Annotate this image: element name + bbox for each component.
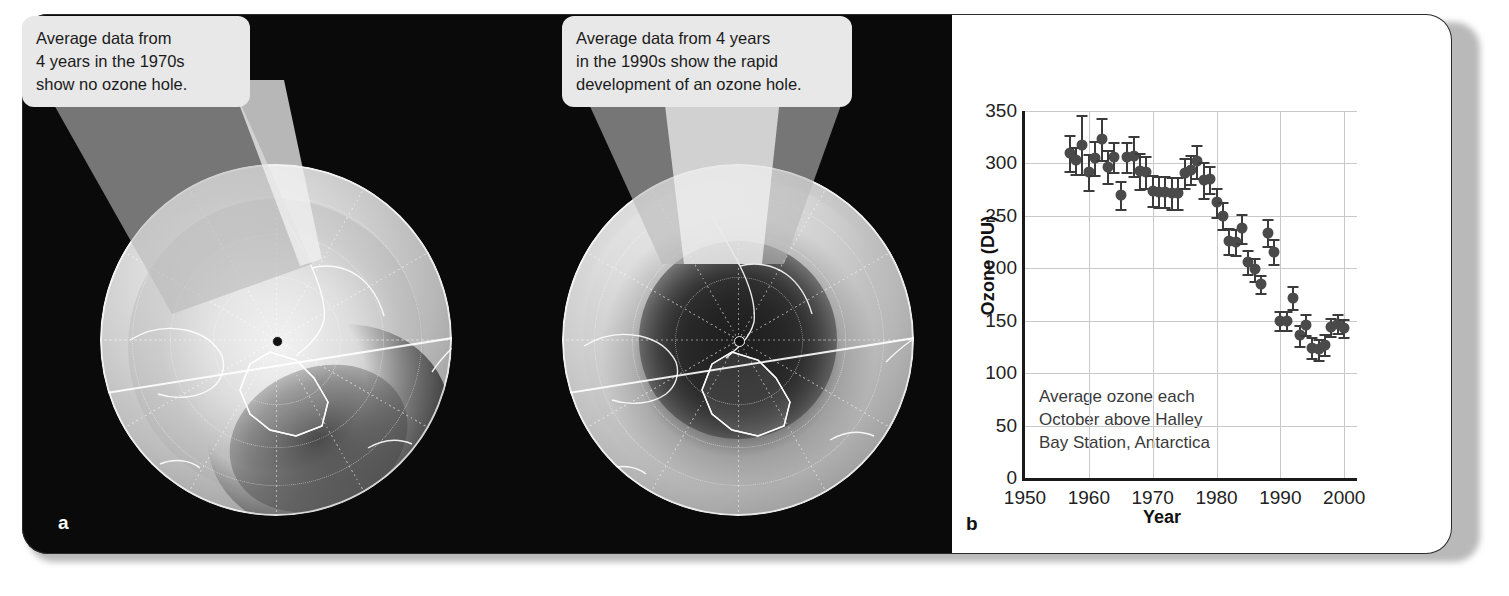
callout-1970s-line-2: 4 years in the 1970s <box>36 50 236 73</box>
y-gridline <box>1025 216 1357 217</box>
y-axis-tick-label: 0 <box>1006 467 1017 489</box>
callout-1990s-bubble: Average data from 4 years in the 1990s s… <box>562 16 852 107</box>
callout-1970s-bubble: Average data from 4 years in the 1970s s… <box>22 16 250 107</box>
data-marker <box>1077 139 1088 150</box>
error-bar-cap-upper <box>1269 239 1280 241</box>
error-bar-cap-lower <box>1198 198 1209 200</box>
error-bar-cap-upper <box>1198 162 1209 164</box>
error-bar-cap-upper <box>1237 214 1248 216</box>
error-bar-cap-lower <box>1122 172 1133 174</box>
plot-annotation-line-3: Bay Station, Antarctica <box>1039 432 1210 455</box>
callout-1990s-line-1: Average data from 4 years <box>576 27 838 50</box>
plot-area: Average ozone each October above Halley … <box>1022 111 1357 481</box>
x-gridline <box>1217 111 1218 478</box>
callout-1990s-line-3: development of an ozone hole. <box>576 73 838 96</box>
x-axis-tick-label: 1970 <box>1132 487 1174 509</box>
x-axis-title: Year <box>952 507 1372 528</box>
error-bar-cap-lower <box>1339 337 1350 339</box>
error-bar-cap-lower <box>1064 171 1075 173</box>
error-bar-cap-lower <box>1288 309 1299 311</box>
data-marker <box>1103 161 1114 172</box>
ozone-figure: a Average data from 4 years in the 1970s… <box>0 0 1509 596</box>
error-bar-cap-upper <box>1281 311 1292 313</box>
error-bar-cap-upper <box>1064 135 1075 137</box>
error-bar-cap-upper <box>1217 202 1228 204</box>
callout-1970s-line-1: Average data from <box>36 27 236 50</box>
x-axis-tick-label: 1980 <box>1195 487 1237 509</box>
error-bar-cap-lower <box>1237 243 1248 245</box>
x-gridline <box>1153 111 1154 478</box>
data-marker <box>1262 227 1273 238</box>
error-bar-cap-lower <box>1326 336 1337 338</box>
plot-annotation-line-1: Average ozone each <box>1039 386 1210 409</box>
y-axis-tick-label: 50 <box>996 415 1017 437</box>
data-marker <box>1339 323 1350 334</box>
error-bar-cap-lower <box>1320 355 1331 357</box>
error-bar-cap-upper <box>1288 286 1299 288</box>
error-bar-cap-lower <box>1269 264 1280 266</box>
error-bar-cap-lower <box>1103 183 1114 185</box>
error-bar-cap-upper <box>1339 319 1350 321</box>
data-marker <box>1230 237 1241 248</box>
panel-a-letter: a <box>58 512 69 534</box>
data-marker <box>1071 155 1082 166</box>
x-axis-tick-label: 1990 <box>1259 487 1301 509</box>
y-gridline <box>1025 111 1357 112</box>
error-bar-cap-lower <box>1083 190 1094 192</box>
callout-1970s-line-3: show no ozone hole. <box>36 73 236 96</box>
error-bar-cap-lower <box>1090 175 1101 177</box>
error-bar-cap-upper <box>1077 115 1088 117</box>
error-bar-cap-upper <box>1243 250 1254 252</box>
error-bar-cap-upper <box>1134 153 1145 155</box>
data-marker <box>1109 152 1120 163</box>
error-bar-cap-upper <box>1256 275 1267 277</box>
data-marker <box>1205 174 1216 185</box>
error-bar-cap-lower <box>1179 188 1190 190</box>
data-marker <box>1237 223 1248 234</box>
error-bar-cap-upper <box>1205 166 1216 168</box>
data-marker <box>1320 339 1331 350</box>
error-bar-cap-lower <box>1173 209 1184 211</box>
error-bar-cap-upper <box>1109 142 1120 144</box>
ozone-timeseries-chart: Ozone (DU) Average ozone each October ab… <box>952 15 1452 554</box>
y-axis-tick-label: 150 <box>985 310 1017 332</box>
error-bar-cap-upper <box>1179 158 1190 160</box>
x-axis-tick-label: 2000 <box>1323 487 1365 509</box>
data-marker <box>1281 315 1292 326</box>
error-bar-cap-upper <box>1096 118 1107 120</box>
y-axis-tick-label: 300 <box>985 152 1017 174</box>
y-axis-tick-label: 350 <box>985 100 1017 122</box>
data-marker <box>1300 319 1311 330</box>
panel-b-chart-plate: Ozone (DU) Average ozone each October ab… <box>952 14 1452 554</box>
error-bar-cap-upper <box>1115 181 1126 183</box>
error-bar-cap-lower <box>1230 255 1241 257</box>
error-bar-cap-upper <box>1122 142 1133 144</box>
y-axis-tick-label: 250 <box>985 205 1017 227</box>
error-bar-cap-lower <box>1115 209 1126 211</box>
callout-1990s-line-2: in the 1990s show the rapid <box>576 50 838 73</box>
x-gridline <box>1344 111 1345 478</box>
data-marker <box>1269 246 1280 257</box>
y-gridline <box>1025 426 1357 427</box>
error-bar-cap-upper <box>1332 314 1343 316</box>
data-marker <box>1256 279 1267 290</box>
error-bar-cap-lower <box>1128 176 1139 178</box>
panel-b-letter: b <box>966 513 978 535</box>
error-bar-cap-lower <box>1281 330 1292 332</box>
data-marker <box>1192 156 1203 167</box>
error-bar-cap-lower <box>1294 346 1305 348</box>
data-marker <box>1217 210 1228 221</box>
plot-annotation-line-2: October above Halley <box>1039 409 1210 432</box>
y-gridline <box>1025 373 1357 374</box>
x-axis-tick-label: 1960 <box>1068 487 1110 509</box>
data-marker <box>1288 292 1299 303</box>
error-bar-cap-lower <box>1109 172 1120 174</box>
error-bar-cap-upper <box>1300 314 1311 316</box>
error-bar-cap-lower <box>1313 360 1324 362</box>
error-bar-cap-upper <box>1128 136 1139 138</box>
data-marker <box>1096 134 1107 145</box>
y-axis-tick-label: 100 <box>985 362 1017 384</box>
error-bar-cap-lower <box>1332 333 1343 335</box>
error-bar-cap-upper <box>1262 219 1273 221</box>
y-axis-tick-label: 200 <box>985 257 1017 279</box>
